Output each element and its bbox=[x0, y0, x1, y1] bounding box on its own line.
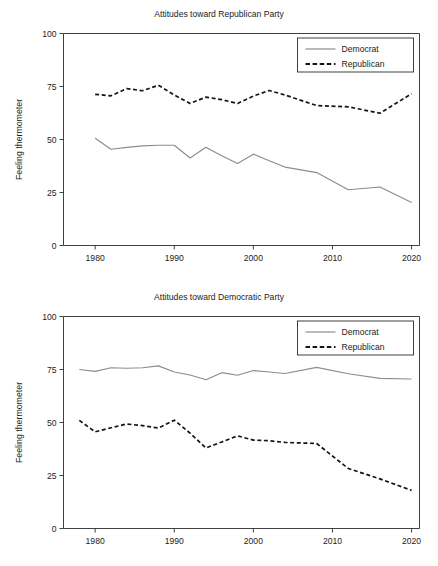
legend-label-democrat: Democrat bbox=[342, 327, 380, 337]
democratic-party-chart: Attitudes toward Democratic Party 025507… bbox=[0, 283, 438, 566]
y-tick-label: 0 bbox=[52, 241, 57, 251]
x-tick-label: 2010 bbox=[323, 536, 342, 546]
x-tick-label: 2000 bbox=[244, 536, 263, 546]
x-tick-label: 2010 bbox=[323, 253, 342, 263]
series-line-democrat bbox=[79, 366, 411, 380]
series-line-democrat bbox=[95, 138, 411, 202]
x-tick-label: 1980 bbox=[86, 253, 105, 263]
y-tick-label: 75 bbox=[47, 365, 57, 375]
y-axis-title: Feeling thermometer bbox=[14, 382, 24, 463]
y-tick-label: 100 bbox=[42, 312, 57, 322]
y-tick-label: 25 bbox=[47, 471, 57, 481]
x-tick-label: 2020 bbox=[402, 536, 421, 546]
y-tick-label: 25 bbox=[47, 188, 57, 198]
figure-canvas: Attitudes toward Republican Party 025507… bbox=[0, 0, 438, 566]
chart-title: Attitudes toward Republican Party bbox=[154, 9, 284, 19]
republican-party-chart: Attitudes toward Republican Party 025507… bbox=[0, 0, 438, 283]
legend-label-democrat: Democrat bbox=[342, 44, 380, 54]
chart-panel-democratic: Attitudes toward Democratic Party 025507… bbox=[0, 283, 438, 566]
y-tick-label: 0 bbox=[52, 524, 57, 534]
y-tick-label: 50 bbox=[47, 135, 57, 145]
series-line-republican bbox=[95, 85, 411, 113]
chart-title: Attitudes toward Democratic Party bbox=[154, 292, 285, 302]
series-line-republican bbox=[79, 420, 411, 490]
x-tick-label: 2000 bbox=[244, 253, 263, 263]
y-tick-label: 75 bbox=[47, 82, 57, 92]
plot-area: 025507510019801990200020102020Feeling th… bbox=[14, 29, 421, 263]
x-tick-label: 1980 bbox=[86, 536, 105, 546]
chart-panel-republican: Attitudes toward Republican Party 025507… bbox=[0, 0, 438, 283]
x-tick-label: 2020 bbox=[402, 253, 421, 263]
x-tick-label: 1990 bbox=[165, 536, 184, 546]
y-axis-title: Feeling thermometer bbox=[14, 99, 24, 180]
y-tick-label: 100 bbox=[42, 29, 57, 39]
plot-area: 025507510019801990200020102020Feeling th… bbox=[14, 312, 421, 546]
x-tick-label: 1990 bbox=[165, 253, 184, 263]
legend-label-republican: Republican bbox=[342, 59, 385, 69]
y-tick-label: 50 bbox=[47, 418, 57, 428]
legend-label-republican: Republican bbox=[342, 342, 385, 352]
